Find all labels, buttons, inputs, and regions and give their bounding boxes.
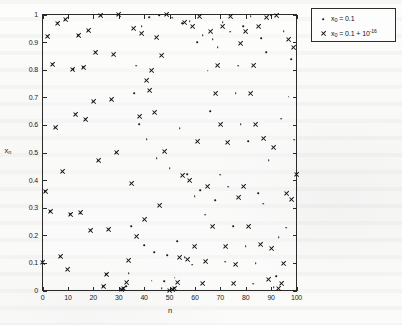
- legend-label-1-rest: = 0.1: [337, 15, 354, 22]
- y-axis-tick: [293, 180, 297, 181]
- x-axis-tick-label: 90: [259, 294, 283, 301]
- x-axis-tick-label: 0: [31, 294, 55, 301]
- x-axis-tick-label: 70: [208, 294, 232, 301]
- y-axis-tick: [43, 208, 47, 209]
- legend-label-series-2: x0 = 0.1 + 10-16: [331, 28, 377, 38]
- x-axis-tick-label: 50: [158, 294, 182, 301]
- y-axis-tick: [43, 153, 47, 154]
- y-axis-tick: [43, 42, 47, 43]
- y-axis-tick: [293, 97, 297, 98]
- x-axis-tick-label: 20: [81, 294, 105, 301]
- x-axis-tick-label: 60: [183, 294, 207, 301]
- y-axis-tick: [43, 15, 47, 16]
- y-axis-tick: [293, 125, 297, 126]
- legend-entry-series-2[interactable]: x0 = 0.1 + 10-16: [315, 26, 392, 40]
- x-axis-label: n: [0, 306, 340, 315]
- x-axis-tick: [68, 15, 69, 19]
- x-axis-tick: [170, 15, 171, 19]
- x-axis-tick: [246, 287, 247, 291]
- x-axis-tick: [119, 287, 120, 291]
- y-axis-tick: [43, 235, 47, 236]
- x-axis-tick: [195, 15, 196, 19]
- y-axis-tick: [43, 291, 47, 292]
- y-axis-tick-label: 0: [12, 287, 38, 294]
- x-axis-tick: [220, 287, 221, 291]
- legend-label-series-1: x0 = 0.1: [331, 15, 354, 23]
- y-axis-tick-label: 0.9: [12, 39, 38, 46]
- x-axis-tick: [246, 15, 247, 19]
- y-axis-tick: [293, 70, 297, 71]
- x-axis-tick-label: 100: [285, 294, 309, 301]
- y-axis-tick-label: 0.2: [12, 232, 38, 239]
- legend-label-2-rest: = 0.1 + 10: [337, 30, 369, 37]
- y-axis-tick: [293, 208, 297, 209]
- legend-marker-dot-icon: [315, 13, 331, 25]
- y-axis-tick: [43, 97, 47, 98]
- x-axis-tick: [68, 287, 69, 291]
- x-axis-tick-label: 40: [132, 294, 156, 301]
- y-axis-tick-label: 0.4: [12, 177, 38, 184]
- x-axis-tick: [297, 287, 298, 291]
- y-axis-tick-label: 0.1: [12, 259, 38, 266]
- y-axis-tick: [293, 263, 297, 264]
- legend-marker-cross-icon: [315, 27, 331, 39]
- y-axis-tick-label: 0.8: [12, 66, 38, 73]
- y-axis-tick-label: 0.7: [12, 94, 38, 101]
- x-axis-tick: [119, 15, 120, 19]
- x-axis-tick: [144, 15, 145, 19]
- y-axis-tick: [43, 180, 47, 181]
- x-axis-tick-label: 80: [234, 294, 258, 301]
- y-axis-tick: [43, 263, 47, 264]
- y-axis-tick: [293, 235, 297, 236]
- x-axis-tick: [297, 15, 298, 19]
- legend-label-2-superscript: -16: [370, 28, 377, 34]
- x-axis-tick: [170, 287, 171, 291]
- x-axis-tick: [271, 287, 272, 291]
- x-axis-tick: [93, 287, 94, 291]
- x-axis-tick: [93, 15, 94, 19]
- x-axis-tick: [43, 287, 44, 291]
- x-axis-tick: [43, 15, 44, 19]
- legend-box[interactable]: x0 = 0.1 x0 = 0.1 + 10-16: [311, 8, 396, 42]
- y-axis-tick-label: 0.3: [12, 204, 38, 211]
- legend-entry-series-1[interactable]: x0 = 0.1: [315, 12, 392, 26]
- x-axis-tick: [271, 15, 272, 19]
- plot-area: [42, 14, 297, 291]
- y-axis-tick-label: 0.6: [12, 121, 38, 128]
- x-axis-tick: [144, 287, 145, 291]
- x-axis-tick-label: 10: [56, 294, 80, 301]
- y-axis-tick-label: 1: [12, 11, 38, 18]
- x-axis-tick: [195, 287, 196, 291]
- y-axis-tick: [293, 42, 297, 43]
- x-axis-tick: [220, 15, 221, 19]
- y-axis-label-subscript: n: [8, 149, 11, 155]
- figure-canvas: 00.10.20.30.40.50.60.70.80.9101020304050…: [0, 0, 402, 325]
- y-axis-tick: [43, 125, 47, 126]
- y-axis-tick: [43, 70, 47, 71]
- y-axis-label: xn: [0, 146, 20, 155]
- x-axis-tick-label: 30: [107, 294, 131, 301]
- y-axis-tick: [293, 153, 297, 154]
